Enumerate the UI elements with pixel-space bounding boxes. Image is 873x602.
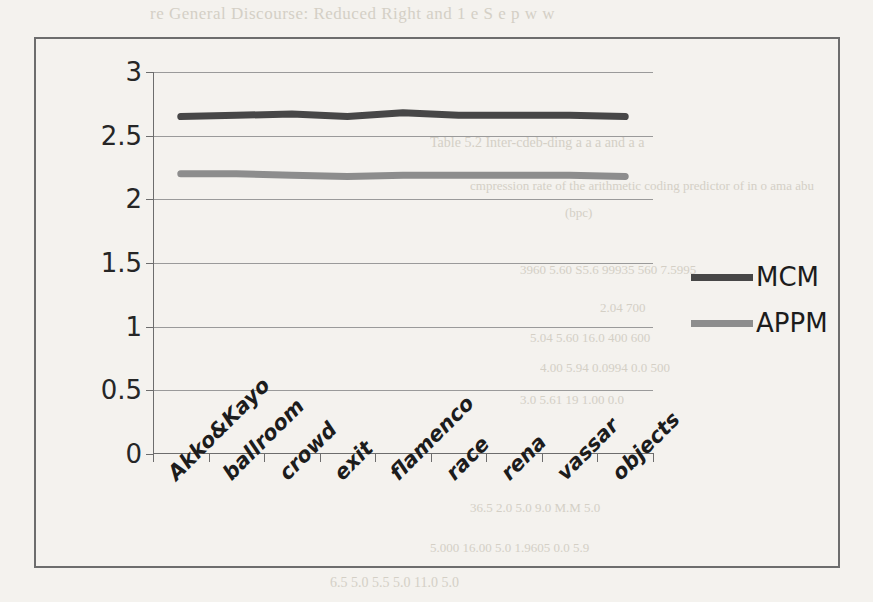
page-bleed-header: re General Discourse: Reduced Right and … bbox=[150, 4, 555, 24]
plot-area: 00.511.522.53 Akko&Kayoballroomcrowdexit… bbox=[153, 72, 653, 454]
x-axis-tick bbox=[153, 453, 154, 462]
chart-legend: MCMAPPM bbox=[691, 254, 828, 346]
legend-label: APPM bbox=[756, 308, 828, 338]
chart-frame: 00.511.522.53 Akko&Kayoballroomcrowdexit… bbox=[34, 37, 840, 568]
y-axis-tick-label: 0.5 bbox=[101, 375, 142, 405]
legend-label: MCM bbox=[756, 262, 819, 292]
series-line-mcm bbox=[181, 113, 625, 117]
legend-item-appm[interactable]: APPM bbox=[691, 300, 828, 346]
y-axis-tick-label: 2 bbox=[125, 184, 142, 214]
page-bleed-text: 6.5 5.0 5.5 5.0 11.0 5.0 bbox=[330, 575, 459, 591]
y-axis-tick-label: 2.5 bbox=[101, 121, 142, 151]
legend-item-mcm[interactable]: MCM bbox=[691, 254, 828, 300]
y-axis-tick-label: 1.5 bbox=[101, 248, 142, 278]
legend-swatch-mcm bbox=[691, 274, 753, 281]
series-line-appm bbox=[181, 174, 625, 177]
y-axis-tick-label: 3 bbox=[125, 57, 142, 87]
series-lines bbox=[153, 72, 653, 454]
y-axis-tick-label: 1 bbox=[125, 312, 142, 342]
y-axis-tick-label: 0 bbox=[125, 439, 142, 469]
legend-swatch-appm bbox=[691, 320, 753, 327]
